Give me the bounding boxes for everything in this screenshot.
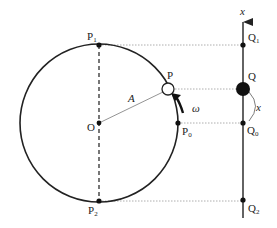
point-q0 — [240, 120, 245, 125]
point-q-moving — [236, 82, 250, 96]
label-displacement-x: x — [255, 101, 261, 113]
point-p0 — [175, 120, 180, 125]
label-p: P — [167, 69, 173, 81]
point-p-moving — [162, 83, 174, 95]
label-q: Q — [248, 70, 256, 82]
label-q1: Q1 — [248, 31, 260, 45]
label-q2: Q2 — [248, 202, 260, 216]
point-q2 — [240, 197, 245, 202]
label-omega: ω — [192, 102, 200, 114]
displacement-bracket — [249, 92, 256, 121]
label-p2: P2 — [88, 204, 98, 218]
label-o: O — [87, 121, 95, 133]
label-p0: P0 — [182, 125, 192, 139]
point-q1 — [240, 42, 245, 47]
label-p1: P1 — [87, 30, 97, 44]
label-q0: Q0 — [247, 124, 259, 138]
point-p2 — [96, 198, 101, 203]
point-o — [97, 121, 102, 126]
label-radius-a: A — [127, 92, 135, 104]
point-p1 — [96, 42, 101, 47]
shm-circle-diagram: x P1 P2 O A P P0 ω Q1 Q x Q0 Q2 — [0, 0, 277, 228]
axis-label-x: x — [239, 5, 245, 17]
